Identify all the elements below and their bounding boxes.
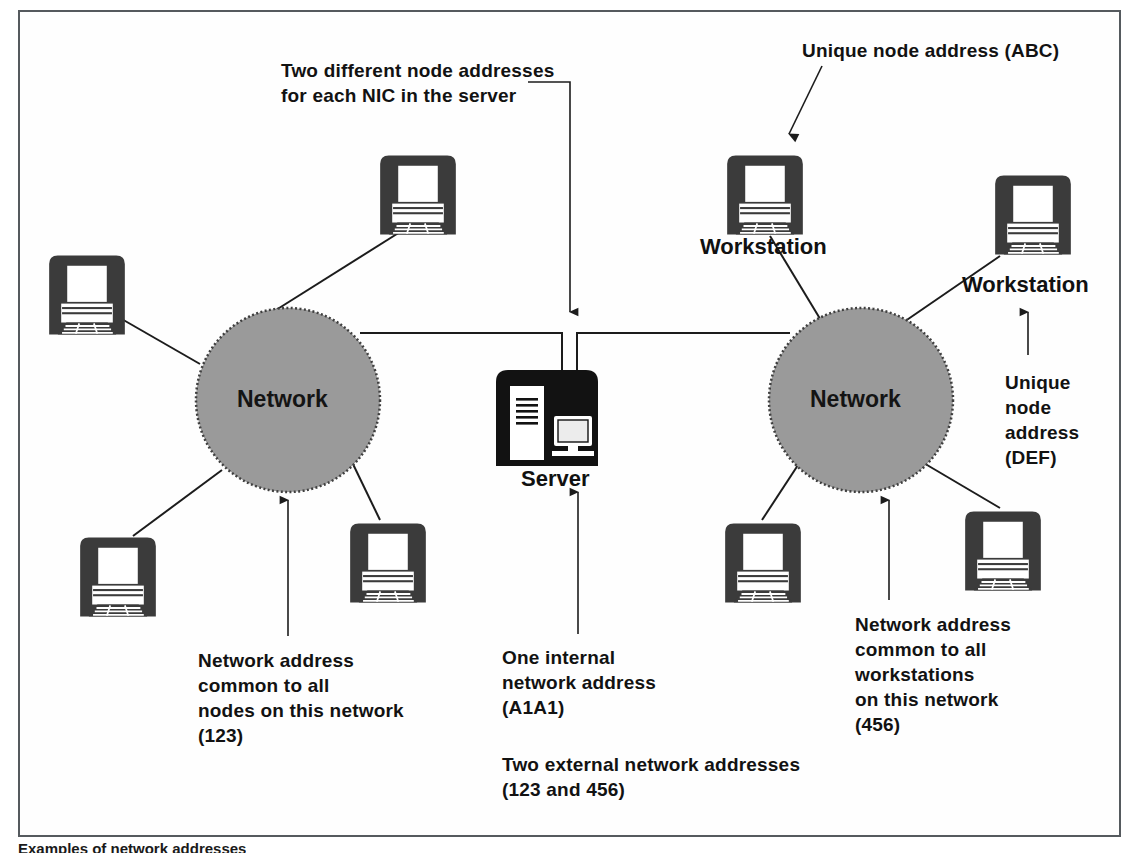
nic-note: Two different node addresses for each NI… xyxy=(281,58,554,108)
workstation-label-east: Workstation xyxy=(962,272,1089,298)
server-address-note: One internal network address (A1A1) xyxy=(502,645,656,720)
figure-caption: Examples of network addresses xyxy=(18,840,246,853)
right-network-note: Network address common to all workstatio… xyxy=(855,612,1011,737)
left-network-note: Network address common to all nodes on t… xyxy=(198,648,404,748)
unique-def-note: Unique node address (DEF) xyxy=(1005,370,1079,470)
cloud-label-right-network: Network xyxy=(810,386,901,413)
workstation-label-top: Workstation xyxy=(700,234,827,260)
server-label: Server xyxy=(521,466,590,492)
diagram-page: Network Network Server Workstation Works… xyxy=(0,0,1145,853)
unique-abc-note: Unique node address (ABC) xyxy=(802,38,1059,63)
cloud-label-left-network: Network xyxy=(237,386,328,413)
server-external-note: Two external network addresses (123 and … xyxy=(502,752,800,802)
